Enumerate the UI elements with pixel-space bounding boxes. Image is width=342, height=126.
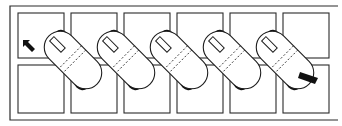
- grid-box: [18, 65, 64, 113]
- chain-diagram: [0, 0, 342, 126]
